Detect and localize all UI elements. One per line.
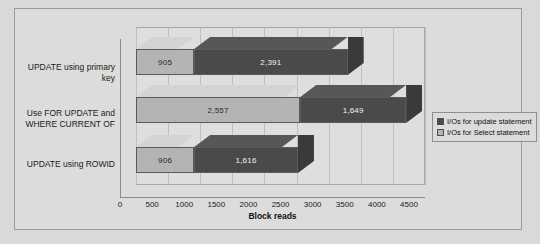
legend-swatch-select <box>437 129 444 136</box>
bar-top-face <box>194 135 298 147</box>
bar-segment[interactable]: 906 <box>136 147 194 173</box>
bar-segment[interactable]: 2,557 <box>136 97 300 123</box>
bar-top-face <box>194 37 348 49</box>
bar-top-face <box>136 85 300 97</box>
x-tick-500: 500 <box>145 200 158 209</box>
x-tick-1000: 1000 <box>175 200 193 209</box>
legend-item-update[interactable]: I/Os for update statement <box>437 116 532 127</box>
category-label-0: UPDATE using primary key <box>15 62 115 84</box>
chart-canvas: UPDATE using primary key Use FOR UPDATE … <box>14 8 522 230</box>
x-tick-4000: 4000 <box>368 200 386 209</box>
legend-label-update: I/Os for update statement <box>447 117 532 126</box>
plot-area: 9052,3912,5571,6499061,616 <box>120 27 425 197</box>
legend-item-select[interactable]: I/Os for Select statement <box>437 127 532 138</box>
x-tick-2500: 2500 <box>272 200 290 209</box>
x-axis-title: Block reads <box>120 211 425 221</box>
gridline-4500 <box>425 27 426 185</box>
category-label-2: UPDATE using ROWID <box>15 159 115 170</box>
x-tick-3500: 3500 <box>336 200 354 209</box>
x-tick-0: 0 <box>118 200 122 209</box>
x-tick-2000: 2000 <box>240 200 258 209</box>
bar-segment[interactable]: 2,391 <box>194 49 348 75</box>
category-label-1: Use FOR UPDATE and WHERE CURRENT OF <box>15 108 115 130</box>
bar-segment[interactable]: 1,649 <box>300 97 406 123</box>
y-axis-line <box>120 39 121 197</box>
x-tick-4500: 4500 <box>400 200 418 209</box>
x-axis-line <box>120 197 425 198</box>
chart-legend: I/Os for update statement I/Os for Selec… <box>432 112 537 142</box>
bar-segment[interactable]: 905 <box>136 49 194 75</box>
x-tick-3000: 3000 <box>304 200 322 209</box>
legend-swatch-update <box>437 118 444 125</box>
bar-top-face <box>300 85 406 97</box>
bar-segment[interactable]: 1,616 <box>194 147 298 173</box>
chart-root: UPDATE using primary key Use FOR UPDATE … <box>0 0 540 244</box>
legend-label-select: I/Os for Select statement <box>447 128 530 137</box>
x-tick-1500: 1500 <box>207 200 225 209</box>
